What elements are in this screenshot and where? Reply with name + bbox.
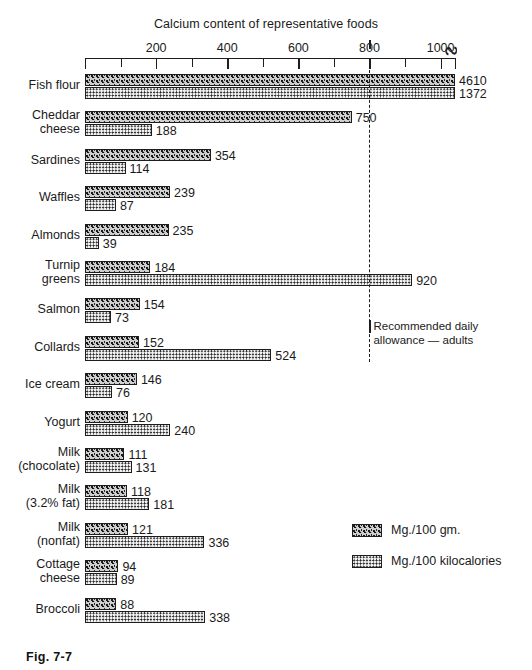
bar-mg-100-gm--5 [85,261,150,273]
bar-value-label: 240 [174,425,195,437]
bar-mg-100-gm--11 [85,485,127,497]
category-label-12: Milk (nonfat) [0,521,79,549]
bar-mg-100-gm--4 [85,224,169,236]
category-label-text: Yogurt [0,415,80,429]
category-label-10: Milk (chocolate) [0,446,79,474]
bar-value-label: 181 [153,499,174,511]
category-label-14: Broccoli [0,596,79,610]
category-label-3: Waffles [0,184,79,198]
bar-value-label: 354 [215,150,236,162]
bar-value-label: 239 [174,187,195,199]
category-label-text: Turnip greens [0,258,80,286]
bar-mg-100-kilocalories-7 [85,349,271,361]
bar-value-label: 114 [130,163,150,175]
bar-value-label: 235 [173,225,194,237]
bar-value-label: 338 [209,612,230,624]
category-label-5: Turnip greens [0,259,79,287]
bar-mg-100-gm--6 [85,298,140,310]
bar-mg-100-gm--2 [85,149,211,161]
bar-value-label: 154 [144,299,165,311]
bar-mg-100-gm--10 [85,448,124,460]
category-label-text: Almonds [0,228,80,242]
bar-value-label: 184 [154,262,175,274]
bar-value-label: 73 [115,312,129,324]
bar-value-label: 89 [121,574,135,586]
bar-mg-100-kilocalories-10 [85,461,132,473]
bar-mg-100-gm--8 [85,373,137,385]
bar-value-label: 94 [122,561,136,573]
bar-value-label: 118 [131,486,151,498]
category-label-text: Milk (3.2% fat) [0,482,80,510]
legend-label: Mg./100 gm. [391,523,460,538]
category-label-text: Ice cream [0,377,80,391]
category-label-4: Almonds [0,222,79,236]
bar-mg-100-kilocalories-12 [85,536,204,548]
bar-value-label: 920 [416,275,437,287]
bar-value-label: 1372 [459,88,487,100]
bar-mg-100-gm--1 [85,111,352,123]
bar-mg-100-kilocalories-2 [85,162,126,174]
bar-mg-100-gm--14 [85,598,116,610]
rda-note-leader [369,320,370,333]
bar-mg-100-gm--12 [85,523,128,535]
bar-mg-100-kilocalories-13 [85,573,117,585]
bar-value-label: 4610 [459,75,487,87]
bar-value-label: 524 [275,350,296,362]
category-label-text: Fish flour [0,78,80,92]
bar-mg-100-kilocalories-5 [85,274,412,286]
category-label-7: Collards [0,334,79,348]
bar-mg-100-gm--3 [85,186,170,198]
bar-value-label: 750 [356,112,377,124]
category-label-text: Collards [0,340,80,354]
bar-value-label: 87 [120,200,134,212]
coarse-speckle-swatch [352,524,382,537]
bar-mg-100-kilocalories-8 [85,386,112,398]
bar-mg-100-kilocalories-3 [85,199,116,211]
category-label-text: Salmon [0,302,80,316]
bar-value-label: 120 [132,412,153,424]
category-label-text: Cheddar cheese [0,108,80,136]
bar-mg-100-gm--0 [85,74,455,86]
bar-value-label: 152 [143,337,164,349]
category-label-text: Cottage cheese [0,557,80,585]
category-label-13: Cottage cheese [0,558,79,586]
bar-value-label: 88 [120,599,134,611]
bar-mg-100-gm--9 [85,411,128,423]
bar-value-label: 188 [156,125,177,137]
bar-value-label: 146 [141,374,162,386]
bar-mg-100-kilocalories-0 [85,87,455,99]
bar-value-label: 131 [136,462,157,474]
category-label-text: Sardines [0,153,80,167]
legend-label: Mg./100 kilocalories [391,554,501,569]
bar-mg-100-kilocalories-4 [85,237,99,249]
calcium-content-bar-chart: Calcium content of representative foods … [0,0,532,670]
bar-value-label: 39 [103,238,117,250]
category-label-6: Salmon [0,296,79,310]
bar-mg-100-kilocalories-1 [85,124,152,136]
category-label-text: Milk (chocolate) [0,445,80,473]
bar-mg-100-gm--7 [85,336,139,348]
bar-value-label: 121 [132,524,153,536]
category-label-11: Milk (3.2% fat) [0,483,79,511]
bar-mg-100-kilocalories-11 [85,498,149,510]
category-label-text: Waffles [0,190,80,204]
category-label-2: Sardines [0,147,79,161]
category-label-text: Milk (nonfat) [0,520,80,548]
rda-annotation-text: Recommended daily allowance — adults [373,319,478,347]
bar-value-label: 111 [128,449,147,461]
bar-mg-100-kilocalories-6 [85,311,111,323]
bar-value-label: 76 [116,387,130,399]
category-label-text: Broccoli [0,602,80,616]
recommended-daily-allowance-line [369,70,370,362]
figure-caption: Fig. 7-7 [26,650,72,664]
category-label-8: Ice cream [0,371,79,385]
category-label-1: Cheddar cheese [0,109,79,137]
rda-top-tick [369,40,370,49]
bar-mg-100-kilocalories-9 [85,424,170,436]
bar-mg-100-kilocalories-14 [85,611,205,623]
category-label-9: Yogurt [0,409,79,423]
category-label-0: Fish flour [0,72,79,86]
bar-value-label: 336 [208,537,229,549]
bar-mg-100-gm--13 [85,560,118,572]
fine-dot-swatch [352,555,382,568]
